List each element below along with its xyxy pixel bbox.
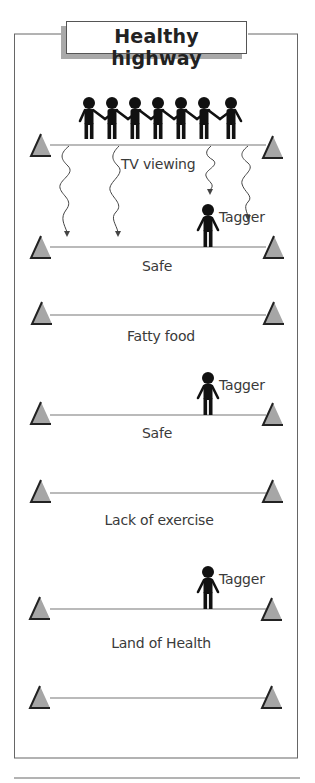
tagger-figure-icon [198,372,218,415]
wavy-arrow-icon [110,146,120,232]
label-safe-2: Safe [142,425,172,441]
healthy-highway-diagram: Healthy highway TV viewing Safe Fatty fo… [0,0,315,783]
wavy-arrow-icon [60,146,70,232]
label-safe-1: Safe [142,258,172,274]
tagger-label: Tagger [219,209,265,225]
label-land-of-health: Land of Health [111,635,211,651]
highway-lines [50,145,266,698]
label-tv-viewing: TV viewing [121,156,195,172]
title-box: Healthy highway [66,21,247,54]
wavy-arrow-icon [206,146,215,190]
label-fatty-food: Fatty food [127,328,195,344]
tagger-figure-icon [198,566,218,609]
diagram-canvas [0,0,315,783]
tagger-label: Tagger [219,377,265,393]
label-lack-of-exercise: Lack of exercise [104,512,213,528]
tagger-figure-icon [198,204,218,247]
people-group-icon [80,97,241,139]
tagger-label: Tagger [219,571,265,587]
diagram-title: Healthy highway [67,25,246,69]
wavy-arrow-icon [242,146,250,216]
